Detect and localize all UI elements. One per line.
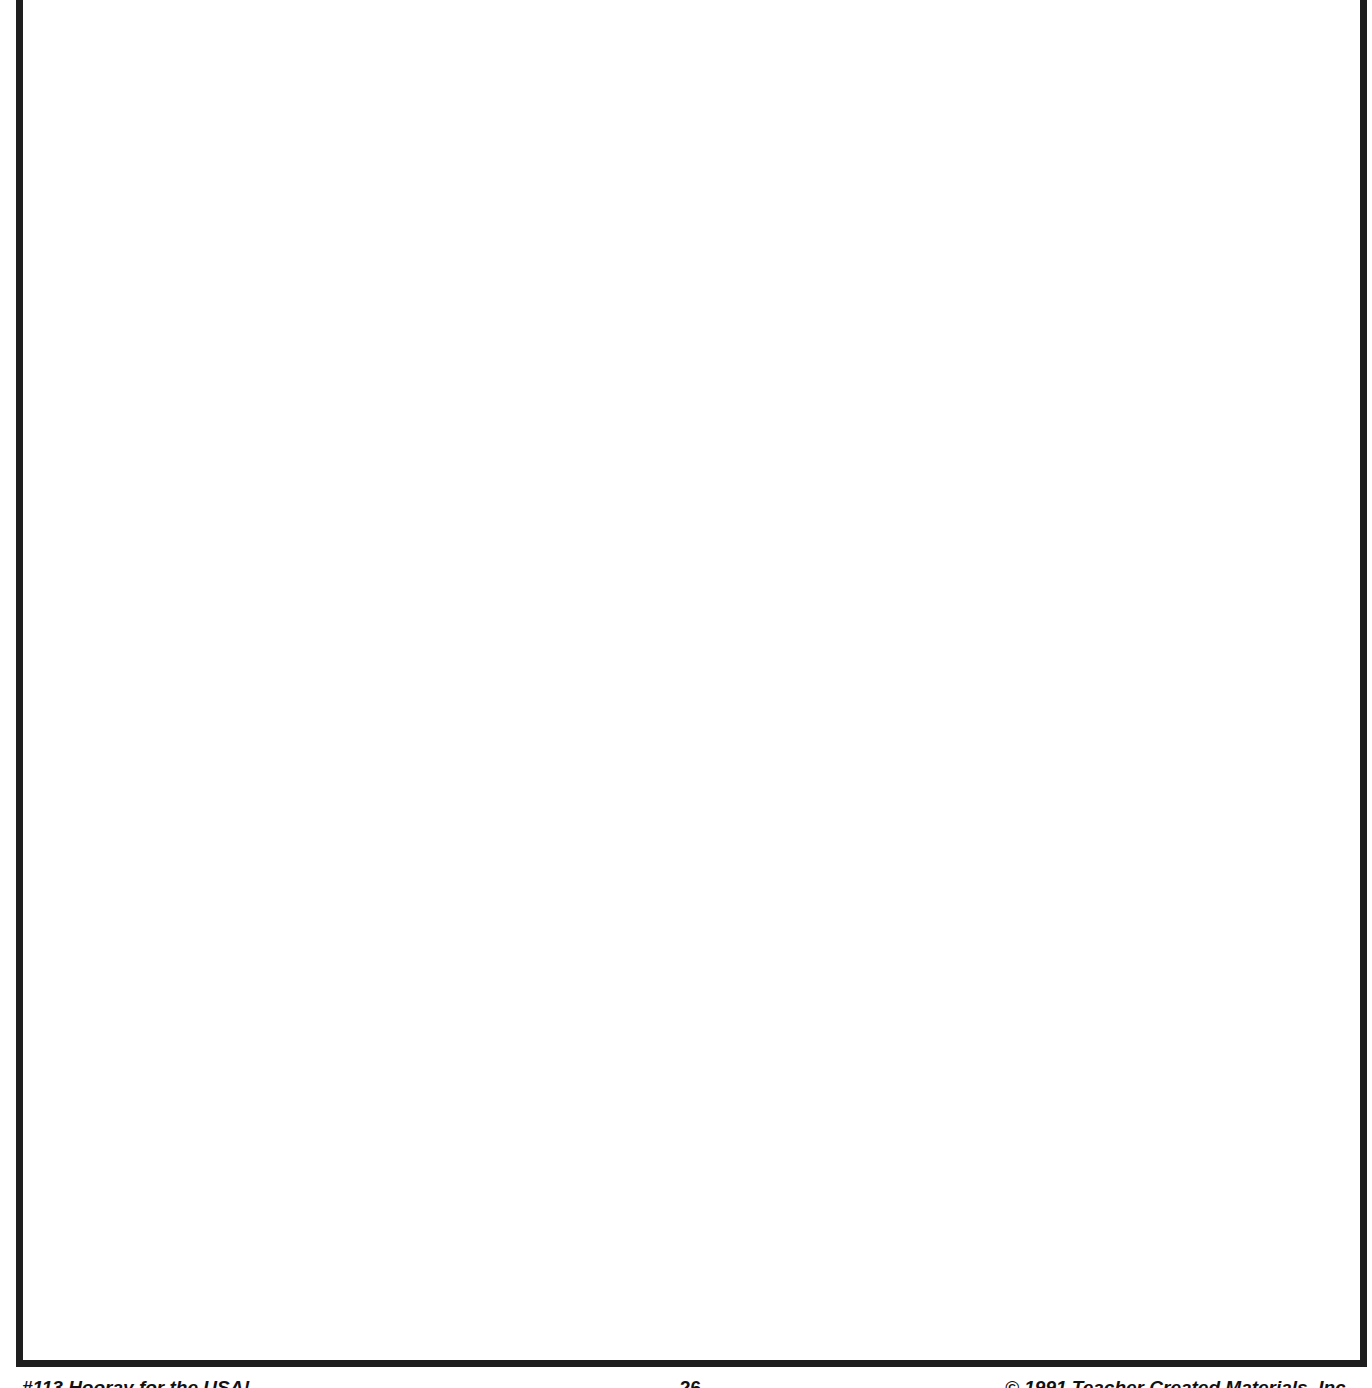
- page-border-frame: [16, 0, 1367, 1367]
- footer-page-number: 26: [680, 1376, 701, 1388]
- footer-book-title: #113 Hooray for the USA!: [22, 1376, 250, 1388]
- footer-copyright: © 1991 Teacher Created Materials, Inc: [1005, 1376, 1346, 1388]
- page-footer: #113 Hooray for the USA! 26 © 1991 Teach…: [0, 1376, 1372, 1388]
